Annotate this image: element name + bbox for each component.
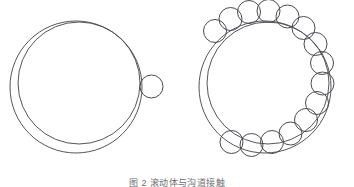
figure-caption: 图 2 滚动体与沟道接触 [0, 178, 354, 187]
figure-canvas [0, 0, 354, 187]
figure-page: 图 2 滚动体与沟道接触 [0, 0, 354, 187]
